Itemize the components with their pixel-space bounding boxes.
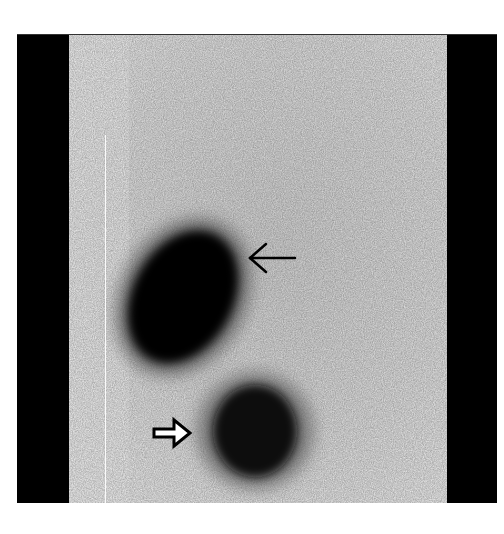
left-black-band: [17, 35, 69, 503]
lower-round-uptake: [197, 373, 313, 489]
scan-image: [69, 35, 447, 503]
scan-frame: [17, 34, 497, 503]
edge-line: [105, 135, 106, 503]
scan-field: [69, 35, 447, 503]
right-black-band: [447, 35, 497, 503]
